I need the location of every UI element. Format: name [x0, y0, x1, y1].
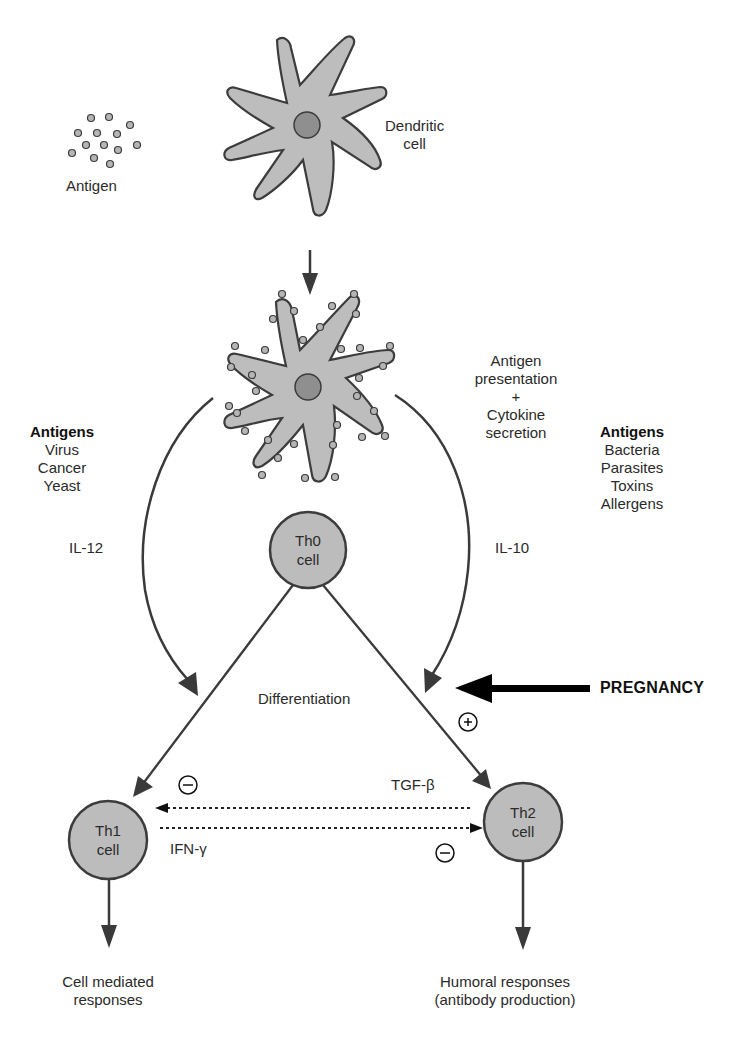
th2-output-arrow	[515, 862, 531, 950]
minus-sign-icon	[436, 844, 454, 862]
ifn-gamma-label: IFN-γ	[170, 840, 207, 858]
il12-label: IL-12	[69, 539, 103, 557]
nucleus-icon	[294, 112, 320, 138]
nucleus-icon	[295, 374, 321, 400]
dendritic-cell-label: Dendritic cell	[385, 117, 444, 153]
antigen-presentation-label: Antigen presentation + Cytokine secretio…	[460, 352, 572, 442]
th1-th2-diagram: Antigen Dendritic cell Antigen presentat…	[0, 0, 730, 1044]
th2-antigen-item: Bacteria	[592, 441, 672, 459]
th1-antigens-title: Antigens	[22, 423, 102, 441]
th2-antigen-item: Parasites	[592, 459, 672, 477]
dendritic-label-line2: cell	[385, 135, 444, 153]
differentiation-label: Differentiation	[258, 690, 350, 708]
th2-line1: Th2	[493, 803, 553, 822]
th1-antigen-item: Virus	[22, 441, 102, 459]
ifn-gamma-inhibition-arrow	[160, 823, 483, 833]
presentation-line5: secretion	[460, 424, 572, 442]
th2-antigen-item: Toxins	[592, 477, 672, 495]
il10-arc-arrow	[395, 395, 469, 693]
th2-outcome-label: Humoral responses (antibody production)	[415, 973, 595, 1009]
th0-cell-label: Th0 cell	[278, 531, 338, 569]
th0-line1: Th0	[278, 531, 338, 550]
tgf-beta-label: TGF-β	[391, 776, 435, 794]
dendritic-label-line1: Dendritic	[385, 117, 444, 135]
th2-outcome-line1: Humoral responses	[415, 973, 595, 991]
th1-line2: cell	[78, 840, 138, 859]
th2-antigens-list: Antigens Bacteria Parasites Toxins Aller…	[592, 423, 672, 513]
activation-arrow-icon	[302, 250, 318, 295]
plus-sign-icon	[459, 713, 477, 731]
antigen-label: Antigen	[66, 177, 117, 195]
tgf-beta-inhibition-arrow	[155, 803, 470, 813]
th2-antigen-item: Allergens	[592, 495, 672, 513]
presentation-line3: +	[460, 388, 572, 406]
th2-line2: cell	[493, 822, 553, 841]
il10-label: IL-10	[495, 539, 529, 557]
th1-outcome-line2: responses	[28, 991, 188, 1009]
dendritic-cell-icon	[224, 36, 386, 215]
pregnancy-label: PREGNANCY	[600, 679, 704, 697]
presentation-line4: Cytokine	[460, 406, 572, 424]
presentation-line2: presentation	[460, 370, 572, 388]
th1-antigens-list: Antigens Virus Cancer Yeast	[22, 423, 102, 495]
presentation-line1: Antigen	[460, 352, 572, 370]
minus-sign-icon	[179, 776, 197, 794]
th1-cell-label: Th1 cell	[78, 821, 138, 859]
activated-dendritic-cell-icon	[224, 291, 394, 482]
th0-line2: cell	[278, 550, 338, 569]
il12-arc-arrow	[143, 398, 213, 696]
th2-cell-label: Th2 cell	[493, 803, 553, 841]
th2-outcome-line2: (antibody production)	[415, 991, 595, 1009]
th1-output-arrow	[101, 880, 117, 948]
th1-antigen-item: Yeast	[22, 477, 102, 495]
th1-line1: Th1	[78, 821, 138, 840]
th1-outcome-label: Cell mediated responses	[28, 973, 188, 1009]
th1-outcome-line1: Cell mediated	[28, 973, 188, 991]
th2-antigens-title: Antigens	[592, 423, 672, 441]
th1-antigen-item: Cancer	[22, 459, 102, 477]
antigen-particles	[69, 114, 141, 168]
pregnancy-arrow-icon	[455, 674, 590, 703]
